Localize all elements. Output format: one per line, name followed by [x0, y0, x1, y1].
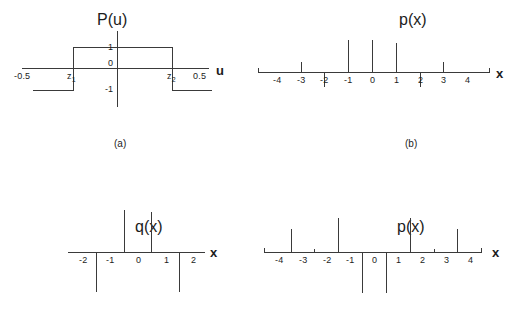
panel-b-x-tick-label: -1 — [344, 75, 352, 85]
panel-d-tick-2 — [434, 249, 435, 253]
panel-c-stem-minus-1point5 — [96, 252, 97, 292]
panel-d-x-tick-label: 1 — [396, 255, 401, 265]
panel-d-stem-minus-0point5 — [362, 252, 363, 293]
panel-b-axis-end-tick-right — [489, 68, 490, 73]
panel-d-x-tick-label: 0 — [372, 255, 377, 265]
panel-b-axis-end-tick-left — [258, 68, 259, 73]
panel-b-x-tick-label: 1 — [394, 75, 399, 85]
panel-a-x-tick-z1: z1 — [67, 71, 76, 85]
panel-d-x-tick-label: 4 — [468, 255, 473, 265]
panel-b-x-axis-name: x — [496, 67, 503, 80]
panel-c-x-tick-label: 1 — [164, 255, 169, 265]
panel-a-caption: (a) — [114, 138, 126, 149]
panel-b-stem-0 — [372, 40, 373, 73]
panel-a-waveform-right-low — [172, 90, 212, 91]
panel-d-x-tick-label: -4 — [275, 255, 283, 265]
panel-c-title: q(x) — [135, 218, 163, 235]
panel-c-x-axis — [68, 252, 205, 253]
panel-d-axis-end-tick-left — [264, 248, 265, 253]
figure-canvas: P(u) 1 0 -1 -0.5 z1 z2 0.5 u (a) p(x) — [0, 0, 515, 316]
panel-d-stem-1point5 — [410, 218, 411, 253]
panel-d-tick-minus-2 — [314, 249, 315, 253]
panel-c-x-tick-label: 0 — [136, 255, 141, 265]
panel-d-x-tick-label: 2 — [420, 255, 425, 265]
panel-b-x-tick-label: -2 — [320, 75, 328, 85]
panel-d-stem-0point5 — [386, 252, 387, 293]
panel-b-tick-minus-3 — [301, 62, 302, 73]
panel-b-x-tick-label: 4 — [465, 75, 470, 85]
panel-d-stem-minus-1point5 — [338, 218, 339, 253]
panel-b-tick-3 — [443, 62, 444, 73]
panel-d: p(x) -4 -3 -2 -1 0 1 2 3 4 x — [258, 158, 515, 316]
panel-c-x-tick-label: 2 — [191, 255, 196, 265]
panel-b-x-tick-label: 3 — [441, 75, 446, 85]
panel-b-stem-1 — [396, 43, 397, 73]
panel-d-stem-3point5 — [457, 229, 458, 253]
panel-d-stem-minus-3point5 — [291, 229, 292, 253]
panel-d-x-tick-label: 3 — [444, 255, 449, 265]
panel-c-stem-1point5 — [179, 252, 180, 292]
panel-b-x-axis — [258, 72, 490, 73]
panel-b-stem-minus-1 — [348, 40, 349, 73]
panel-b-caption: (b) — [405, 138, 417, 149]
panel-a-y-axis — [117, 31, 118, 107]
panel-c-x-axis-name: x — [210, 246, 217, 259]
panel-a-x-tick-0point5: 0.5 — [193, 71, 206, 81]
panel-a-x-tick-z2: z2 — [167, 71, 176, 85]
panel-d-x-axis-name: x — [492, 246, 499, 259]
panel-a-y-tick-minus-1: -1 — [98, 84, 113, 94]
panel-b: p(x) -4 -3 -2 -1 0 1 2 3 4 x (b) — [258, 0, 515, 158]
panel-a-waveform-left-low — [33, 90, 73, 91]
panel-a-x-axis-name: u — [216, 64, 224, 77]
panel-a-y-tick-0: 0 — [101, 58, 113, 68]
panel-d-axis-end-tick-right — [481, 248, 482, 253]
panel-b-x-tick-label: -3 — [297, 75, 305, 85]
panel-a-waveform-plateau-high — [73, 47, 172, 48]
panel-b-x-tick-label: 2 — [418, 75, 423, 85]
panel-c-x-tick-label: -2 — [79, 255, 87, 265]
panel-b-x-tick-label: -4 — [273, 75, 281, 85]
panel-c-stem-minus-0point5 — [124, 210, 125, 253]
panel-d-x-tick-label: -1 — [346, 255, 354, 265]
panel-b-title: p(x) — [399, 11, 427, 28]
panel-a-y-tick-1: 1 — [101, 42, 113, 52]
panel-a: P(u) 1 0 -1 -0.5 z1 z2 0.5 u (a) — [0, 0, 258, 158]
panel-c-x-tick-label: -1 — [106, 255, 114, 265]
panel-a-x-tick-minus-0point5: -0.5 — [14, 71, 30, 81]
panel-d-x-tick-label: -2 — [323, 255, 331, 265]
panel-b-x-tick-label: 0 — [370, 75, 375, 85]
panel-d-x-axis — [264, 252, 482, 253]
panel-a-x-axis — [22, 68, 209, 69]
panel-c: q(x) -2 -1 0 1 2 x — [0, 158, 258, 316]
panel-d-x-tick-label: -3 — [299, 255, 307, 265]
panel-a-title: P(u) — [97, 11, 127, 28]
panel-c-stem-0point5 — [151, 212, 152, 253]
